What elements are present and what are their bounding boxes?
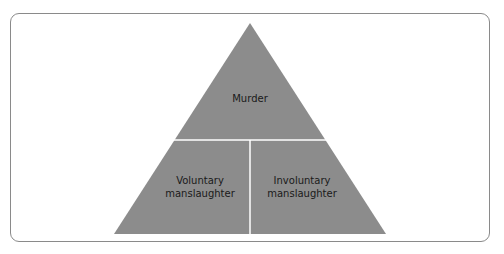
pyramid [0, 0, 504, 254]
murder-label: Murder [232, 93, 268, 104]
voluntary-label-line2: manslaughter [150, 187, 250, 200]
involuntary-label-line1: Involuntary [252, 174, 352, 187]
involuntary-label-line2: manslaughter [252, 187, 352, 200]
voluntary-label-line1: Voluntary [150, 174, 250, 187]
tier-top-murder: Murder [210, 92, 290, 105]
tier-bottom-left-voluntary: Voluntary manslaughter [150, 174, 250, 200]
tier-bottom-right-involuntary: Involuntary manslaughter [252, 174, 352, 200]
